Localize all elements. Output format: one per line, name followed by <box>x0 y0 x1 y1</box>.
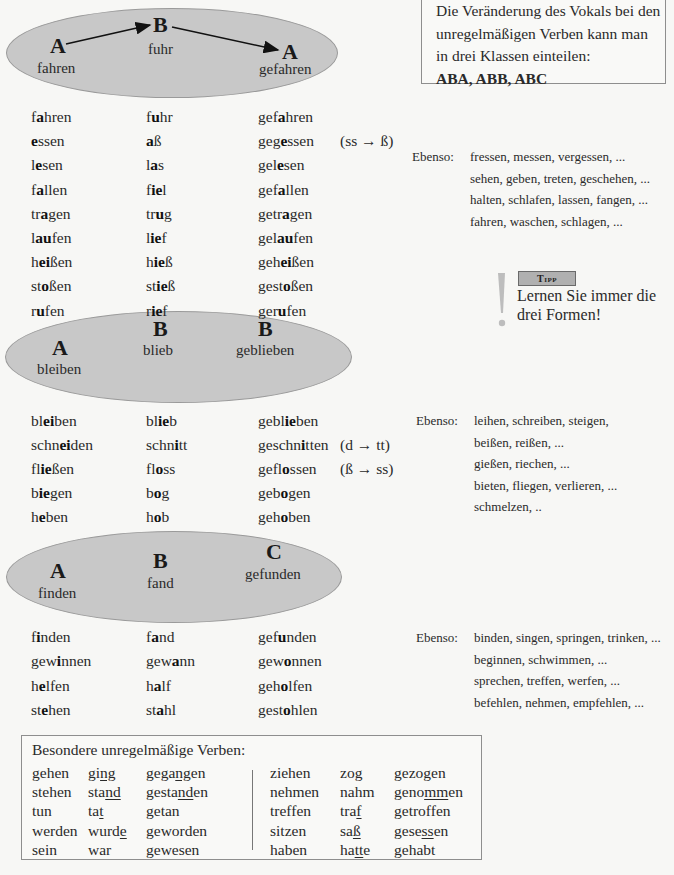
special-verbs-title: Besondere unregelmäßige Verben: <box>32 741 245 759</box>
verb-row: findenfandgefunden <box>0 628 400 650</box>
verb-preterite: nahm <box>340 783 374 801</box>
verb-preterite: traf <box>340 802 362 820</box>
verb-infinitive: tun <box>32 802 52 820</box>
verb-preterite: lief <box>146 229 167 247</box>
verb-participle: getan <box>146 802 180 820</box>
verb-preterite: half <box>146 677 171 695</box>
verb-infinitive: fließen <box>31 460 74 478</box>
verb-infinitive: lesen <box>31 156 63 174</box>
verb-preterite: tat <box>88 802 104 820</box>
verb-preterite: stand <box>88 783 121 801</box>
verb-row: tragentruggetragen <box>0 205 400 227</box>
verb-participle: gestohlen <box>258 701 317 719</box>
verb-row: rufenriefgerufen <box>0 302 400 324</box>
ebenso-line: sprechen, treffen, werfen, ... <box>474 670 661 692</box>
verb-preterite: trug <box>146 205 172 223</box>
letter-a: A <box>50 558 66 584</box>
verb-row: heißenhießgeheißen <box>0 253 400 275</box>
verb-participle: gestanden <box>146 783 208 801</box>
verb-preterite: zog <box>340 764 362 782</box>
verb-preterite: bog <box>146 484 169 502</box>
verb-participle: gesessen <box>394 822 448 840</box>
verb-preterite: las <box>146 156 164 174</box>
verb-preterite: hieß <box>146 253 173 271</box>
verb-preterite: stahl <box>146 701 176 719</box>
verb-row: schneidenschnittgeschnitten(d → tt) <box>0 436 400 458</box>
ebenso-label: Ebenso: <box>412 146 454 168</box>
verb-preterite: fuhr <box>146 108 173 126</box>
tipp-line: Lernen Sie immer die <box>517 286 656 305</box>
verb-participle: geholfen <box>258 677 312 695</box>
verb-participle: getragen <box>258 205 312 223</box>
verb-preterite: fiel <box>146 181 167 199</box>
verb-participle: gefahren <box>258 108 313 126</box>
verb-participle: gebogen <box>258 484 311 502</box>
verb-infinitive: heißen <box>31 253 72 271</box>
verb-infinitive: tragen <box>31 205 71 223</box>
verb-row: biegenboggebogen <box>0 484 400 506</box>
ebenso-line: leihen, schreiben, steigen, <box>474 410 617 432</box>
column-divider <box>252 770 253 850</box>
verb-infinitive: stoßen <box>31 277 71 295</box>
verb-row: laufenliefgelaufen <box>0 229 400 251</box>
verb-preterite: hatte <box>340 841 370 859</box>
verb-row: essenaßgegessen(ss → ß) <box>0 132 400 154</box>
verb-preterite: gewann <box>146 652 195 670</box>
verb-row: fallenfielgefallen <box>0 181 400 203</box>
label-participle: gefahren <box>259 61 311 78</box>
verb-participle: genommen <box>394 783 463 801</box>
verb-participle: gegessen <box>258 132 314 150</box>
verb-infinitive: helfen <box>31 677 70 695</box>
verb-infinitive: fahren <box>31 108 71 126</box>
label-infinitive: fahren <box>37 60 75 77</box>
verb-infinitive: gewinnen <box>31 652 91 670</box>
exclamation-icon <box>496 271 516 331</box>
verb-row: hebenhobgehoben <box>0 508 400 530</box>
verb-participle: geheißen <box>258 253 314 271</box>
letter-c: C <box>266 539 282 565</box>
ebenso-line: fressen, messen, vergessen, ... <box>470 146 650 168</box>
verb-participle: gestoßen <box>258 277 313 295</box>
letter-b: B <box>153 12 168 38</box>
verb-infinitive: heben <box>31 508 68 526</box>
verb-participle: gehabt <box>394 841 435 859</box>
label-preterite: blieb <box>143 342 173 359</box>
verb-participle: geblieben <box>258 412 318 430</box>
verb-preterite: aß <box>146 132 162 150</box>
verb-infinitive: nehmen <box>270 783 319 801</box>
letter-a: A <box>50 33 66 59</box>
ebenso-label: Ebenso: <box>416 627 458 649</box>
verb-row: lesenlasgelesen <box>0 156 400 178</box>
ebenso-line: gießen, riechen, ... <box>474 453 617 475</box>
verb-row: helfenhalfgeholfen <box>0 677 400 699</box>
letter-a: A <box>52 335 68 361</box>
verb-preterite: blieb <box>146 412 177 430</box>
verb-participle: getroffen <box>394 802 451 820</box>
verb-preterite: fand <box>146 628 174 646</box>
ebenso-line: befehlen, nehmen, empfehlen, ... <box>474 692 661 714</box>
verb-infinitive: fallen <box>31 181 67 199</box>
verb-infinitive: sitzen <box>270 822 306 840</box>
tipp-text: Lernen Sie immer die drei Formen! <box>517 286 656 324</box>
verb-preterite: wurde <box>88 822 127 840</box>
verb-participle: gegangen <box>146 764 205 782</box>
label-participle: gefunden <box>245 566 301 583</box>
verb-participle: gefallen <box>258 181 309 199</box>
verb-infinitive: treffen <box>270 802 311 820</box>
verb-row: gewinnengewanngewonnen <box>0 652 400 674</box>
verb-infinitive: essen <box>31 132 65 150</box>
label-infinitive: bleiben <box>37 361 81 378</box>
verb-participle: geschnitten <box>258 436 329 454</box>
verb-participle: geworden <box>146 822 207 840</box>
verb-participle: gefunden <box>258 628 317 646</box>
verb-participle: gewonnen <box>258 652 322 670</box>
ebenso-line: fahren, waschen, schlagen, ... <box>470 211 650 233</box>
ebenso-label: Ebenso: <box>416 410 458 432</box>
verb-participle: gewesen <box>146 841 199 859</box>
label-participle: geblieben <box>236 342 294 359</box>
ebenso-line: halten, schlafen, lassen, fangen, ... <box>470 189 650 211</box>
tipp-line: drei Formen! <box>517 305 656 324</box>
verb-row: fahrenfuhrgefahren <box>0 108 400 130</box>
ebenso-line: schmelzen, .. <box>474 496 617 518</box>
verb-infinitive: sein <box>32 841 57 859</box>
